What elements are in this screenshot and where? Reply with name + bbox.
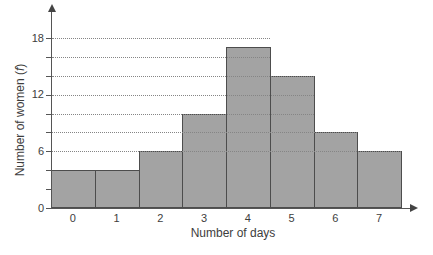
x-tick-label-2: 2 <box>145 212 175 225</box>
y-axis-title-prefix: Number of women ( <box>13 71 27 176</box>
gridline-y-10 <box>52 114 314 115</box>
gridline-y-18 <box>52 38 270 39</box>
y-axis-arrow-icon <box>48 4 56 12</box>
gridline-y-12 <box>52 95 314 96</box>
y-axis-title-text: Number of women (f) <box>13 64 27 177</box>
bar-day-2 <box>139 151 184 208</box>
bar-day-1 <box>95 170 140 208</box>
y-axis-line <box>51 10 52 209</box>
y-tick-label-18: 18 <box>18 32 44 45</box>
gridline-y-16 <box>52 57 270 58</box>
x-tick-label-7: 7 <box>364 212 394 225</box>
gridline-y-8 <box>52 132 357 133</box>
x-axis-line <box>46 208 410 209</box>
y-tick-label-6: 6 <box>18 145 44 158</box>
y-tick-label-0: 0 <box>18 202 44 215</box>
x-tick-label-4: 4 <box>233 212 263 225</box>
bar-day-7 <box>357 151 402 208</box>
x-tick-label-3: 3 <box>189 212 219 225</box>
gridline-y-6 <box>52 151 401 152</box>
x-tick-label-0: 0 <box>58 212 88 225</box>
bar-day-6 <box>314 132 359 208</box>
x-axis-title: Number of days <box>153 226 313 240</box>
y-tick-label-12: 12 <box>18 88 44 101</box>
bar-day-0 <box>51 170 96 208</box>
x-tick-label-6: 6 <box>320 212 350 225</box>
y-axis-title-f-symbol: f <box>13 68 27 71</box>
histogram-chart: Number of women (f) Number of days 06121… <box>0 0 433 255</box>
x-tick-label-1: 1 <box>102 212 132 225</box>
x-tick-label-5: 5 <box>277 212 307 225</box>
bar-day-3 <box>182 114 227 208</box>
plot-area: 06121801234567 <box>0 0 433 255</box>
y-axis-title-suffix: ) <box>13 64 27 68</box>
x-axis-arrow-icon <box>410 204 418 212</box>
gridline-y-14 <box>52 76 314 77</box>
bar-day-4 <box>226 47 271 208</box>
